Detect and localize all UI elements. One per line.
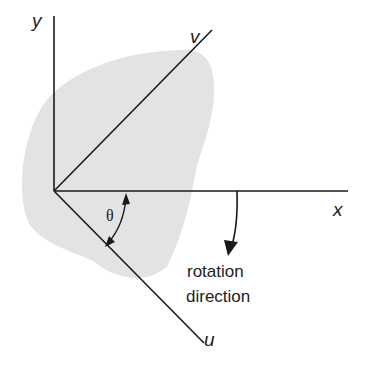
v-axis-label: v — [190, 26, 201, 47]
y-axis-label: y — [30, 10, 43, 31]
u-axis-label: u — [204, 329, 215, 350]
rotation-label-line2: direction — [186, 287, 250, 306]
theta-label: θ — [106, 207, 114, 224]
rotation-arrow — [232, 191, 237, 245]
rotation-label-line1: rotation — [187, 262, 244, 281]
rotation-arrowhead-icon — [224, 240, 238, 256]
rotated-axes-diagram: y v x u θ rotation direction — [0, 0, 372, 374]
shaded-body — [22, 50, 214, 278]
x-axis-label: x — [332, 199, 344, 220]
